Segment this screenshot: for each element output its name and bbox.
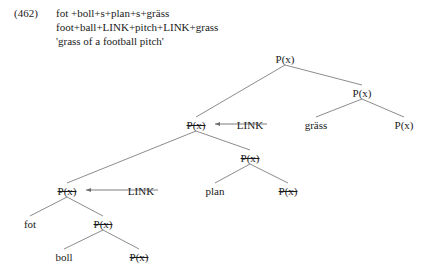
tree-node-n3: P(x): [395, 119, 414, 131]
tree-node-n6: P(x): [241, 152, 260, 164]
tree-edge-n4-n9: [67, 131, 196, 183]
tree-node-n12: P(x): [94, 218, 113, 230]
tree-edge-n0-n1: [285, 65, 362, 85]
tree-node-n2: gräss: [305, 119, 328, 131]
tree-edge-n1-n2: [316, 99, 362, 117]
tree-edge-n4-n6: [196, 131, 250, 150]
tree-node-n1: P(x): [353, 87, 372, 99]
tree-edges: [0, 0, 428, 276]
tree-node-n14: P(x): [130, 251, 149, 263]
tree-node-n7: plan: [206, 185, 225, 197]
tree-edge-n12-n14: [103, 230, 139, 249]
tree-node-n11: fot: [24, 218, 36, 230]
tree-node-n4: P(x): [187, 119, 206, 131]
tree-edge-n9-n12: [67, 197, 103, 216]
tree-edge-n6-n8: [250, 164, 288, 183]
figure-root: (462) fot +boll+s+plan+s+gräss foot+ball…: [0, 0, 428, 276]
tree-edge-n6-n7: [215, 164, 250, 183]
tree-edge-n0-n4: [196, 65, 285, 117]
tree-edge-n1-n3: [362, 99, 404, 117]
tree-node-n10: LINK: [128, 185, 154, 197]
tree-node-n8: P(x): [279, 185, 298, 197]
tree-edge-n9-n11: [30, 197, 67, 216]
tree-edge-n12-n13: [64, 230, 103, 249]
tree-node-n5: LINK: [237, 119, 263, 131]
tree-node-n0: P(x): [276, 53, 295, 65]
tree-node-n9: P(x): [58, 185, 77, 197]
tree-node-n13: boll: [55, 251, 72, 263]
